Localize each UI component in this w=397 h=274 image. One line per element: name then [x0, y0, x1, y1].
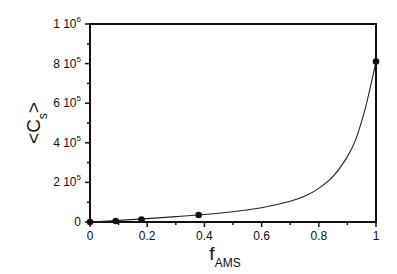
chart: 02 1054 1056 1058 1051 106 00.20.40.60.8…: [0, 0, 397, 274]
data-point: [195, 212, 202, 219]
x-tick-label: 0.6: [253, 229, 270, 243]
y-tick-label: 4 105: [53, 134, 81, 150]
x-tick-label: 1: [373, 229, 380, 243]
data-points: [87, 58, 380, 225]
x-tick-label: 0.2: [139, 229, 156, 243]
x-axis-ticks: 00.20.40.60.81: [87, 222, 380, 243]
data-point: [373, 58, 380, 65]
data-point: [112, 218, 119, 225]
y-tick-label: 6 105: [53, 94, 81, 110]
y-tick-label: 2 105: [53, 173, 81, 189]
y-tick-label: 0: [74, 215, 81, 229]
fit-curve: [90, 62, 376, 222]
x-tick-label: 0: [87, 229, 94, 243]
y-tick-label: 1 106: [53, 15, 81, 31]
x-axis-label: fAMS: [209, 243, 240, 270]
data-point: [87, 219, 94, 226]
data-point: [138, 216, 145, 223]
plot-frame: [90, 24, 376, 222]
x-tick-label: 0.4: [196, 229, 213, 243]
y-axis-ticks: 02 1054 1056 1058 1051 106: [53, 15, 90, 229]
x-tick-label: 0.8: [310, 229, 327, 243]
y-axis-label: <Cs>: [23, 102, 50, 144]
y-tick-label: 8 105: [53, 55, 81, 71]
